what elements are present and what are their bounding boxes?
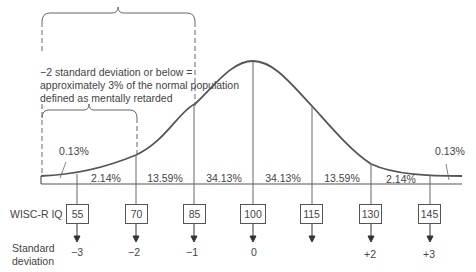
outer-bracket	[42, 7, 195, 22]
right-tail-label: 0.13%	[435, 145, 465, 157]
segment-pct-5: 13.59%	[324, 172, 360, 184]
segment-pct-6: 2.14%	[386, 173, 416, 185]
iq-box-55: 55	[66, 204, 89, 224]
note-line-3: defined as mentally retarded	[40, 92, 239, 105]
sd-label-minus3: −3	[71, 246, 83, 258]
iq-box-115: 115	[300, 204, 323, 224]
segment-pct-3: 34.13%	[206, 172, 242, 184]
note-line-1: −2 standard deviation or below =	[40, 66, 239, 79]
left-tail-leader	[60, 162, 66, 178]
inner-bracket	[42, 104, 137, 118]
normal-curve-diagram	[0, 0, 476, 272]
segment-pct-1: 2.14%	[91, 172, 121, 184]
iq-row-label: WISC-R IQ	[10, 208, 63, 221]
sd-label-minus2: −2	[128, 246, 140, 258]
iq-box-100: 100	[240, 204, 266, 224]
sd-label-plus2: +2	[364, 248, 376, 260]
mental-retardation-note: −2 standard deviation or below = approxi…	[40, 66, 239, 105]
iq-box-145: 145	[418, 204, 441, 224]
sd-arrows	[74, 224, 433, 242]
left-tail-label: 0.13%	[59, 145, 89, 157]
sd-label-0: 0	[251, 246, 257, 258]
segment-pct-4: 34.13%	[265, 172, 301, 184]
iq-box-70: 70	[125, 204, 148, 224]
sd-label-minus1: −1	[186, 246, 198, 258]
sd-label-plus3: +3	[423, 248, 435, 260]
segment-pct-2: 13.59%	[147, 172, 183, 184]
iq-box-130: 130	[359, 204, 382, 224]
sd-row-label-line1: Standard	[12, 242, 55, 255]
right-tail-leader	[446, 164, 449, 180]
sd-row-label-line2: deviation	[12, 255, 54, 268]
note-line-2: approximately 3% of the normal populatio…	[40, 79, 239, 92]
iq-box-85: 85	[183, 204, 206, 224]
